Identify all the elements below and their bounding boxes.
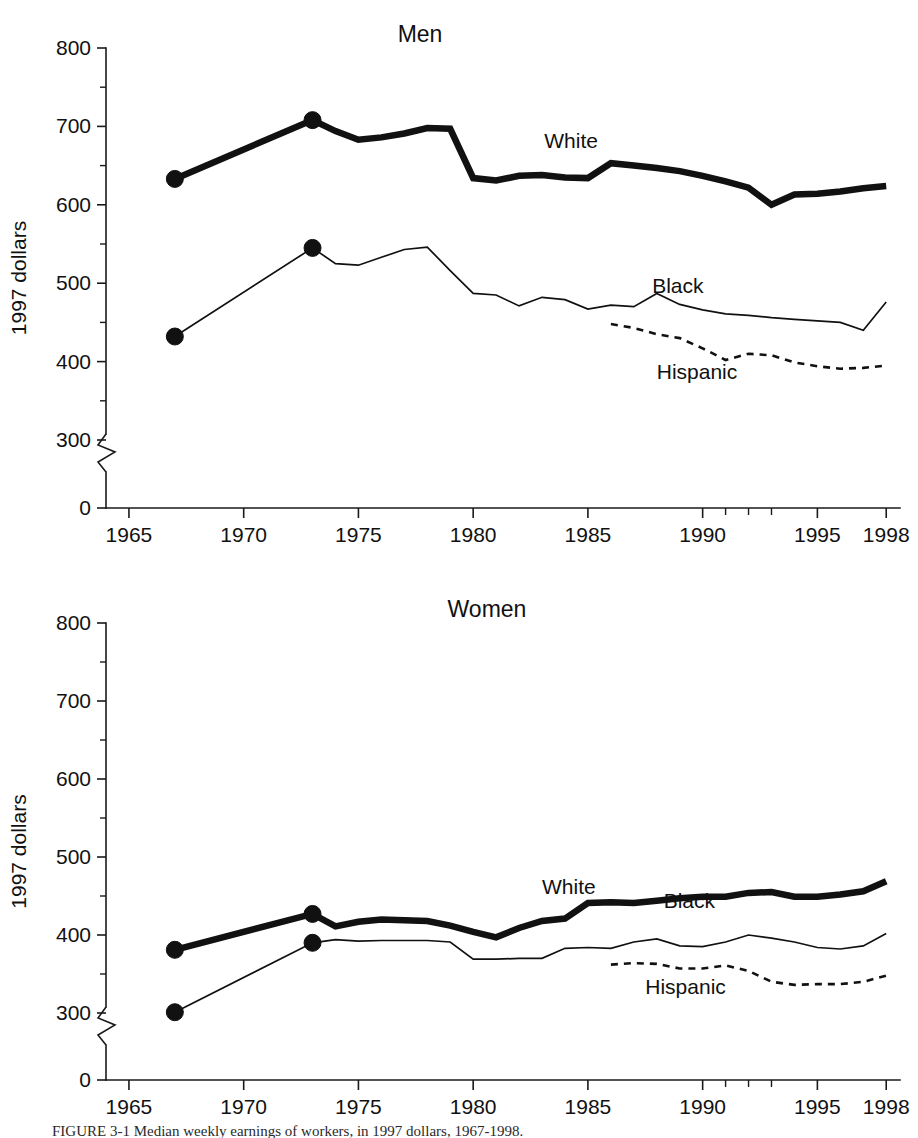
- y-axis-title-women: 1997 dollars: [7, 794, 30, 908]
- axes-group: 0300400500600700800196519701975198019851…: [56, 611, 910, 1118]
- series-label-white-women: White: [542, 875, 596, 898]
- y-tick-label-800: 800: [56, 611, 91, 634]
- x-tick-label-1985: 1985: [565, 1095, 612, 1118]
- y-tick-label-0: 0: [79, 1068, 91, 1091]
- x-tick-label-1965: 1965: [106, 1095, 153, 1118]
- x-tick-label-1975: 1975: [335, 1095, 382, 1118]
- series-marker-white-1967: [166, 941, 183, 958]
- series-label-black-men: Black: [652, 274, 704, 297]
- x-tick-label-1970: 1970: [220, 523, 267, 546]
- y-tick-label-600: 600: [56, 767, 91, 790]
- y-tick-label-500: 500: [56, 845, 91, 868]
- y-tick-label-300: 300: [56, 1001, 91, 1024]
- series-line-black-men: [175, 247, 886, 336]
- y-tick-label-600: 600: [56, 193, 91, 216]
- x-tick-label-1998: 1998: [863, 523, 910, 546]
- x-tick-label-1990: 1990: [679, 1095, 726, 1118]
- x-tick-label-1995: 1995: [794, 1095, 841, 1118]
- series-line-white-men: [175, 120, 886, 205]
- x-tick-label-1975: 1975: [335, 523, 382, 546]
- x-tick-label-1985: 1985: [565, 523, 612, 546]
- y-tick-label-800: 800: [56, 36, 91, 59]
- panel-title-men: Men: [398, 21, 443, 47]
- x-tick-label-1998: 1998: [863, 1095, 910, 1118]
- y-tick-label-400: 400: [56, 350, 91, 373]
- y-tick-label-500: 500: [56, 271, 91, 294]
- axes-group: 0300400500600700800196519701975198019851…: [56, 36, 910, 546]
- x-tick-label-1970: 1970: [220, 1095, 267, 1118]
- chart-panel-women: 0300400500600700800196519701975198019851…: [0, 575, 918, 1120]
- series-label-black-women: Black: [664, 889, 716, 912]
- men-chart-svg: 0300400500600700800196519701975198019851…: [0, 0, 918, 560]
- women-chart-svg: 0300400500600700800196519701975198019851…: [0, 575, 918, 1120]
- y-tick-label-300: 300: [56, 428, 91, 451]
- y-tick-label-700: 700: [56, 689, 91, 712]
- figure-container: 0300400500600700800196519701975198019851…: [0, 0, 918, 1138]
- series-marker-black-1967: [166, 328, 183, 345]
- series-line-black-women: [175, 933, 886, 1012]
- y-tick-label-700: 700: [56, 114, 91, 137]
- x-tick-label-1990: 1990: [679, 523, 726, 546]
- x-tick-label-1980: 1980: [450, 1095, 497, 1118]
- y-tick-label-400: 400: [56, 923, 91, 946]
- chart-panel-men: 0300400500600700800196519701975198019851…: [0, 0, 918, 560]
- series-label-hispanic-women: Hispanic: [645, 975, 726, 998]
- series-marker-black-1967: [166, 1004, 183, 1021]
- series-label-white-men: White: [544, 129, 598, 152]
- figure-caption: FIGURE 3-1 Median weekly earnings of wor…: [52, 1122, 902, 1138]
- series-marker-black-1973: [304, 934, 321, 951]
- panel-title-women: Women: [448, 596, 527, 622]
- series-label-hispanic-men: Hispanic: [657, 360, 738, 383]
- x-tick-label-1965: 1965: [106, 523, 153, 546]
- x-tick-label-1980: 1980: [450, 523, 497, 546]
- series-marker-white-1973: [304, 905, 321, 922]
- y-axis-title-men: 1997 dollars: [7, 221, 30, 335]
- series-marker-white-1973: [304, 112, 321, 129]
- y-tick-label-0: 0: [79, 496, 91, 519]
- series-marker-white-1967: [166, 170, 183, 187]
- series-marker-black-1973: [304, 239, 321, 256]
- x-tick-label-1995: 1995: [794, 523, 841, 546]
- series-line-hispanic-men: [611, 324, 886, 369]
